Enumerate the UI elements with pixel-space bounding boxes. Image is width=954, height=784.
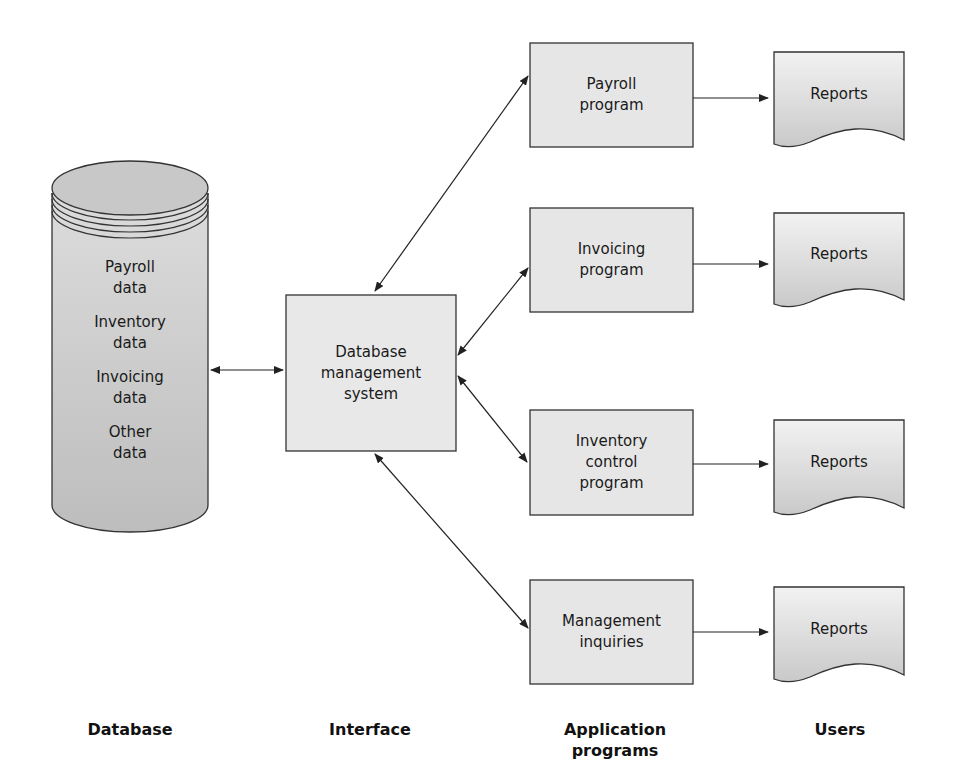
report-label-4: Reports bbox=[774, 619, 904, 640]
inventory-program-label: Inventory control program bbox=[530, 431, 693, 494]
program-line: program bbox=[579, 96, 643, 114]
report-label-1: Reports bbox=[774, 84, 904, 105]
header-line: Application bbox=[564, 720, 666, 739]
db-line: Other bbox=[109, 423, 152, 441]
program-line: program bbox=[579, 261, 643, 279]
database-item-payroll: Payrolldata bbox=[60, 257, 200, 299]
program-line: Management bbox=[562, 612, 661, 630]
program-line: Inventory bbox=[576, 432, 648, 450]
database-item-invoicing: Invoicingdata bbox=[60, 367, 200, 409]
db-line: Inventory bbox=[94, 313, 166, 331]
column-header-interface: Interface bbox=[300, 719, 440, 740]
column-header-users: Users bbox=[790, 719, 890, 740]
db-line: data bbox=[113, 444, 147, 462]
db-line: data bbox=[113, 389, 147, 407]
invoicing-program-label: Invoicing program bbox=[530, 239, 693, 281]
report-documents bbox=[774, 52, 904, 682]
database-item-inventory: Inventorydata bbox=[60, 312, 200, 354]
dbms-line: system bbox=[344, 385, 398, 403]
dbms-line: Database bbox=[335, 343, 407, 361]
program-line: Invoicing bbox=[578, 240, 646, 258]
db-line: Payroll bbox=[105, 258, 155, 276]
program-line: Payroll bbox=[587, 75, 637, 93]
payroll-program-label: Payroll program bbox=[530, 74, 693, 116]
management-inquiries-label: Management inquiries bbox=[530, 611, 693, 653]
program-line: program bbox=[579, 474, 643, 492]
db-line: data bbox=[113, 279, 147, 297]
dbms-label: Database management system bbox=[286, 342, 456, 405]
header-line: programs bbox=[572, 741, 659, 760]
program-line: inquiries bbox=[579, 633, 643, 651]
db-line: data bbox=[113, 334, 147, 352]
column-header-database: Database bbox=[60, 719, 200, 740]
database-contents: Payrolldata Inventorydata Invoicingdata … bbox=[60, 257, 200, 464]
column-header-application-programs: Application programs bbox=[540, 719, 690, 761]
report-label-2: Reports bbox=[774, 244, 904, 265]
dbms-line: management bbox=[321, 364, 421, 382]
program-line: control bbox=[586, 453, 638, 471]
db-line: Invoicing bbox=[96, 368, 164, 386]
report-label-3: Reports bbox=[774, 452, 904, 473]
database-item-other: Otherdata bbox=[60, 422, 200, 464]
